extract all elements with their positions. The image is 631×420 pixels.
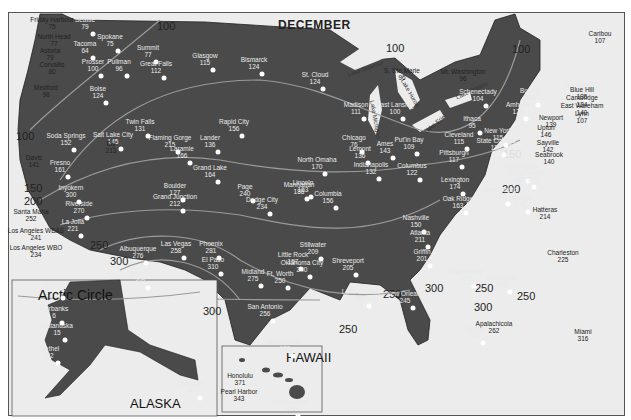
station-value: 6 <box>40 312 69 319</box>
isoline-label: 300 <box>203 305 221 317</box>
station-label: Los Angeles WBAS241 <box>8 227 64 241</box>
station-marker-icon <box>61 296 66 301</box>
station-value: 146 <box>537 131 554 138</box>
station-value: 115 <box>192 59 217 66</box>
station-name: Pearl Harbor <box>221 388 258 395</box>
station-value: 233 <box>486 281 518 288</box>
station-marker-icon <box>99 74 104 79</box>
station-name: Chicago <box>342 134 366 141</box>
station-name: Los Angeles WBO <box>10 244 63 251</box>
station-label: Seabrook140 <box>535 151 563 165</box>
station-label: Ithaca95 <box>463 115 481 129</box>
station-value: 252 <box>13 215 48 222</box>
station-name: Shreveport <box>332 257 364 264</box>
station-value: 136 <box>349 152 371 159</box>
isoline-label: 250 <box>517 290 535 302</box>
station-value: 209 <box>300 248 326 255</box>
station-label: Medford98 <box>34 84 58 98</box>
station-name: Boulder <box>164 182 186 189</box>
station-value: 245 <box>386 297 424 304</box>
station-marker-icon <box>116 49 121 54</box>
isoline-label: 100 <box>16 130 34 142</box>
station-value: 152 <box>46 139 85 146</box>
station-name: Seabrook <box>535 151 563 158</box>
station-value: 241 <box>8 234 64 241</box>
station-marker-icon <box>63 338 68 343</box>
station-marker-icon <box>391 156 396 161</box>
station-name: Ft. Worth <box>267 270 294 277</box>
station-name: Columbia <box>314 190 341 197</box>
station-label: S. Ste Marie96 <box>384 67 420 81</box>
station-marker-icon <box>182 256 187 261</box>
station-value: 174 <box>441 183 469 190</box>
station-value: 75 <box>97 40 123 47</box>
station-marker-icon <box>271 319 276 324</box>
station-marker-icon <box>66 175 71 180</box>
station-name: Albuquerque <box>120 245 157 252</box>
station-label: Soda Springs152 <box>46 132 85 146</box>
station-value: 161 <box>50 166 70 173</box>
station-label: Inyokern300 <box>59 184 84 198</box>
station-value: 239 <box>449 275 483 282</box>
station-label: Tucson305 <box>129 270 150 284</box>
station-name: Mt. Weather <box>508 169 543 176</box>
station-name: Glasgow <box>192 52 217 59</box>
station-marker-icon <box>216 150 221 155</box>
station-name: North Head <box>37 33 70 40</box>
station-name: Grand Lake <box>193 164 227 171</box>
station-label: Corvallis80 <box>40 61 65 75</box>
station-name: Salt Lake City <box>93 131 133 138</box>
station-name: Riverside <box>65 200 92 207</box>
station-name: Pittsburgh <box>439 149 468 156</box>
station-name: Las Vegas <box>161 240 191 247</box>
station-name: Fairbanks <box>40 305 69 312</box>
station-label: Prosser100 <box>82 58 104 72</box>
station-value: 96 <box>384 74 420 81</box>
station-value: 141 <box>26 161 42 168</box>
station-label: Los Angeles WBO234 <box>10 244 63 258</box>
station-label: Rapid City156 <box>219 118 249 132</box>
station-label: Honolulu371 <box>227 372 253 386</box>
station-marker-icon <box>464 211 469 216</box>
station-value: 127 <box>164 189 186 196</box>
station-label: Columbia156 <box>314 190 341 204</box>
station-marker-icon <box>367 304 372 309</box>
station-name: Tacoma <box>74 40 97 47</box>
station-value: 276 <box>120 252 157 259</box>
station-value: 281 <box>199 247 223 254</box>
station-name: Charleston <box>547 249 578 256</box>
station-marker-icon <box>79 234 84 239</box>
station-marker-icon <box>377 177 382 182</box>
station-value: 125 <box>506 108 530 115</box>
station-value: 112 <box>140 67 172 74</box>
station-marker-icon <box>321 87 326 92</box>
station-value: 211 <box>410 236 430 243</box>
station-name: Sayville <box>537 139 559 146</box>
station-label: Cleveland115 <box>445 131 474 145</box>
station-marker-icon <box>56 361 61 366</box>
station-label: Boise124 <box>90 85 106 99</box>
station-name: Boston <box>520 87 540 94</box>
station-name: Blue Hill <box>570 86 594 93</box>
station-value: 124 <box>241 63 268 70</box>
station-label: Ft. Worth250 <box>267 270 294 284</box>
station-value: 250 <box>342 295 380 302</box>
station-label: State College116 <box>476 137 515 151</box>
station-marker-icon <box>478 131 483 136</box>
station-name: Manhattan <box>284 181 315 188</box>
station-name: Page <box>237 183 252 190</box>
station-value: 80 <box>40 68 65 75</box>
station-name: Tucson <box>129 270 150 277</box>
station-label: Albuquerque276 <box>120 245 157 259</box>
station-name: Matanuska <box>41 322 73 329</box>
station-value: 156 <box>314 197 341 204</box>
station-name: Lake Charles <box>342 288 380 295</box>
station-marker-icon <box>524 117 529 122</box>
station-name: Lemont <box>349 145 371 152</box>
station-value: 371 <box>227 379 253 386</box>
station-marker-icon <box>251 199 256 204</box>
station-name: Davis <box>26 154 42 161</box>
station-name: Soda Springs <box>46 132 85 139</box>
station-name: Raleigh <box>509 194 531 201</box>
station-label: Pearl Harbor343 <box>221 388 258 402</box>
